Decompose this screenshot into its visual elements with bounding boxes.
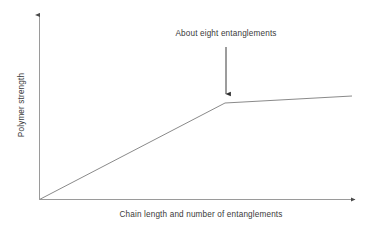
annotation-label: About eight entanglements [175, 30, 276, 38]
y-axis-label: Polymer strength [18, 73, 26, 137]
x-axis-label: Chain length and number of entanglements [119, 211, 282, 219]
polymer-strength-chart-figure: About eight entanglements Chain length a… [0, 0, 383, 235]
polymer-strength-curve [40, 96, 353, 200]
